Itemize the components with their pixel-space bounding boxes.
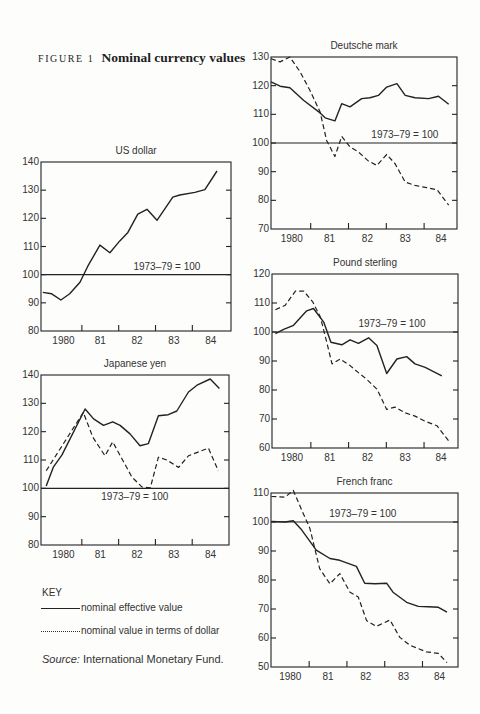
- y-tick-label: 90: [244, 355, 270, 367]
- y-tick-label: 60: [244, 442, 270, 454]
- dashed-line-swatch: [41, 631, 80, 632]
- x-tick-label: 81: [313, 671, 343, 683]
- x-tick-label: 83: [159, 549, 189, 561]
- chart-title: Pound sterling: [272, 256, 458, 269]
- x-tick-label: 84: [196, 549, 226, 561]
- y-tick-label: 100: [244, 326, 270, 338]
- x-tick-label: 1980: [48, 335, 78, 347]
- source-text: International Monetary Fund.: [80, 653, 224, 665]
- source-note: Source: International Monetary Fund.: [42, 652, 224, 666]
- y-tick-label: 100: [13, 269, 39, 281]
- plot-area: [272, 274, 458, 448]
- x-tick-label: 82: [122, 549, 152, 561]
- x-tick-label: 84: [426, 452, 456, 464]
- dollar-value-line: [46, 412, 218, 487]
- reference-label: 1973–79 = 100: [133, 261, 200, 273]
- chart-title: Japanese yen: [41, 357, 229, 370]
- effective-value-line: [46, 379, 219, 486]
- x-tick-label: 1980: [277, 233, 307, 245]
- legend-title: KEY: [42, 586, 62, 599]
- y-tick-label: 90: [243, 545, 269, 557]
- chart-japanese-yen: Japanese yen8090100110120130140198081828…: [41, 375, 229, 545]
- y-tick-label: 100: [13, 482, 39, 494]
- reference-label: 1973–79 = 100: [358, 318, 425, 330]
- y-tick-label: 110: [243, 487, 269, 499]
- y-tick-label: 80: [13, 539, 39, 551]
- x-tick-label: 82: [352, 452, 382, 464]
- y-tick-label: 140: [13, 156, 39, 168]
- y-tick-label: 70: [243, 223, 269, 235]
- x-tick-label: 84: [196, 335, 226, 347]
- y-tick-label: 100: [243, 137, 269, 149]
- y-tick-label: 130: [13, 397, 39, 409]
- plot-area: [41, 375, 229, 545]
- x-tick-label: 84: [426, 233, 456, 245]
- chart-deutsche-mark: Deutsche mark708090100110120130198081828…: [271, 57, 457, 229]
- y-tick-label: 80: [243, 194, 269, 206]
- y-tick-label: 50: [243, 661, 269, 673]
- reference-label: 1973–79 = 100: [329, 508, 396, 520]
- reference-label: 1973–79 = 100: [101, 491, 168, 503]
- legend-solid-label: nominal effective value: [81, 602, 183, 613]
- y-tick-label: 60: [243, 632, 269, 644]
- plot-frame: [41, 375, 229, 545]
- x-tick-label: 84: [424, 671, 454, 683]
- x-tick-label: 81: [85, 335, 115, 347]
- y-tick-label: 80: [13, 325, 39, 337]
- y-tick-label: 90: [13, 511, 39, 523]
- plot-area: [271, 57, 457, 229]
- y-tick-label: 140: [13, 369, 39, 381]
- figure-name: Nominal currency values: [101, 50, 245, 65]
- y-tick-label: 130: [13, 184, 39, 196]
- x-tick-label: 1980: [48, 549, 78, 561]
- y-tick-label: 130: [243, 51, 269, 63]
- plot-frame: [272, 274, 458, 448]
- chart-title: French franc: [271, 475, 458, 488]
- chart-title: US dollar: [41, 144, 231, 157]
- x-tick-label: 83: [389, 671, 419, 683]
- x-tick-label: 83: [390, 452, 420, 464]
- legend-dashed-label: nominal value in terms of dollar: [81, 625, 219, 636]
- y-tick-label: 110: [244, 297, 270, 309]
- plot-frame: [41, 162, 231, 331]
- y-tick-label: 120: [13, 212, 39, 224]
- chart-title: Deutsche mark: [271, 39, 457, 52]
- y-tick-label: 70: [243, 603, 269, 615]
- x-tick-label: 1980: [275, 671, 305, 683]
- y-tick-label: 120: [13, 426, 39, 438]
- reference-label: 1973–79 = 100: [371, 129, 438, 141]
- y-tick-label: 120: [243, 80, 269, 92]
- effective-value-line: [271, 82, 449, 121]
- x-tick-label: 1980: [277, 452, 307, 464]
- legend-item-solid: nominal effective value: [41, 601, 183, 614]
- solid-line-swatch: [41, 608, 80, 609]
- y-tick-label: 90: [13, 297, 39, 309]
- x-tick-label: 82: [122, 335, 152, 347]
- chart-us-dollar: US dollar8090100110120130140198081828384…: [41, 162, 231, 331]
- y-tick-label: 110: [13, 454, 39, 466]
- y-tick-label: 110: [243, 108, 269, 120]
- y-tick-label: 120: [244, 268, 270, 280]
- y-tick-label: 80: [244, 384, 270, 396]
- y-tick-label: 110: [13, 241, 39, 253]
- figure-title: FIGURE 1Nominal currency values: [38, 48, 245, 66]
- figure-label: FIGURE 1: [38, 53, 94, 64]
- plot-area: [41, 162, 231, 331]
- x-tick-label: 82: [352, 233, 382, 245]
- legend-item-dashed: nominal value in terms of dollar: [41, 624, 219, 637]
- chart-french-franc: French franc5060708090100110198081828384…: [271, 493, 458, 667]
- y-tick-label: 90: [243, 166, 269, 178]
- x-tick-label: 81: [315, 452, 345, 464]
- x-tick-label: 82: [351, 671, 381, 683]
- effective-value-line: [43, 171, 217, 300]
- y-tick-label: 70: [244, 413, 270, 425]
- source-label: Source:: [42, 653, 80, 665]
- y-tick-label: 100: [243, 516, 269, 528]
- x-tick-label: 81: [85, 549, 115, 561]
- x-tick-label: 81: [315, 233, 345, 245]
- x-tick-label: 83: [159, 335, 189, 347]
- chart-pound-sterling: Pound sterling60708090100110120198081828…: [272, 274, 458, 448]
- x-tick-label: 83: [390, 233, 420, 245]
- y-tick-label: 80: [243, 574, 269, 586]
